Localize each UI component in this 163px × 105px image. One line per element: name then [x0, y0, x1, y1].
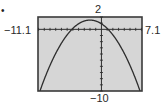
graph-screen — [0, 0, 163, 105]
plot-area — [38, 17, 142, 91]
